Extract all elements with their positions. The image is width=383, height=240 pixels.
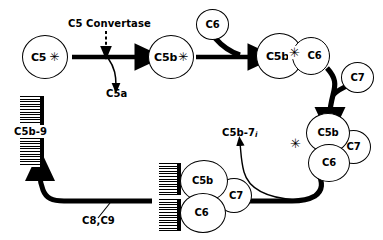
- arrow-membrane-to-c5b9: [40, 175, 152, 201]
- activation-star-icon: ✳: [288, 46, 301, 59]
- node-c5b-part-label: C5b: [266, 51, 289, 62]
- label-c5a: C5a: [106, 89, 127, 99]
- membrane-bar-icon-upper-left: [20, 96, 44, 125]
- arrow-to-c5a: [108, 58, 116, 86]
- node-c5b-free[interactable]: C5b ✳: [148, 35, 194, 79]
- membrane-bar-icon-lower-center: [159, 199, 181, 231]
- node-c5[interactable]: C5 ✳: [22, 35, 68, 79]
- complex-node-c6: C6: [308, 144, 350, 182]
- connector-c6-join: [215, 38, 240, 55]
- node-c6-part-label: C6: [308, 51, 322, 61]
- arrow-c5b-c6-to-complex: [327, 68, 335, 113]
- complex-c5b-c6-c7-fluid[interactable]: C5b C6 C7 ✳: [292, 113, 372, 185]
- node-c7-free-label: C7: [351, 73, 365, 83]
- complex-c7-label: C7: [347, 142, 361, 152]
- label-c5b-7i-text: C5b-7: [222, 127, 255, 138]
- complex-c5b-label: C5b: [318, 128, 339, 138]
- complex-c6-label: C6: [322, 158, 336, 168]
- node-c7-free[interactable]: C7: [341, 62, 374, 93]
- node-c6-label: C6: [206, 20, 220, 30]
- node-c5-label: C5: [31, 52, 46, 63]
- activation-star-icon: ✳: [290, 137, 301, 150]
- activation-star-icon: ✳: [178, 51, 188, 63]
- label-c5-convertase: C5 Convertase: [68, 19, 151, 29]
- membrane-complex-node-c6: C6: [180, 193, 226, 233]
- node-c5b-c6-complex[interactable]: C5b C6 ✳: [256, 33, 328, 79]
- node-c6-free[interactable]: C6: [196, 9, 229, 40]
- label-c5b-7i: C5b-7i: [222, 128, 258, 138]
- node-c5b-label: C5b: [154, 52, 177, 63]
- membrane-bar-icon-upper-center: [159, 163, 181, 195]
- membrane-bar-icon-lower-left: [20, 138, 44, 167]
- complex-c5b-c6-c7-membrane[interactable]: C5b C6 C7: [180, 160, 258, 234]
- label-c5b-9: C5b-9: [14, 127, 47, 137]
- membrane-complex-c7-label: C7: [229, 191, 243, 201]
- membrane-complex-c6-label: C6: [195, 208, 209, 218]
- membrane-complex-c5b-label: C5b: [192, 176, 213, 186]
- label-c8-c9: C8,C9: [82, 216, 115, 226]
- label-c5b-7i-subscript: i: [255, 130, 258, 139]
- activation-star-icon: ✳: [49, 51, 59, 63]
- complement-pathway-diagram: C5 ✳ C5b ✳ C6 C5b C6 ✳ C7 C5b C6 C7 ✳: [0, 0, 383, 240]
